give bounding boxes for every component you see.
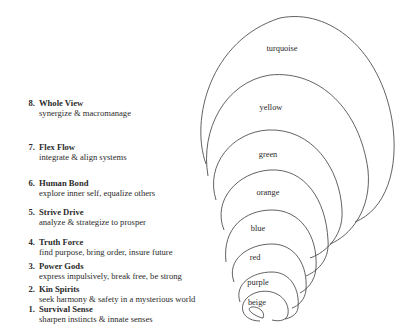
ring-label-purple: purple	[247, 278, 268, 287]
ring-blue	[226, 210, 317, 293]
ring-label-red: red	[250, 253, 261, 262]
ring-label-turquoise: turquoise	[266, 44, 297, 53]
ring-label-orange: orange	[257, 188, 280, 197]
ring-label-beige: beige	[248, 298, 266, 307]
ring-orange	[221, 170, 328, 276]
ring-yellow	[207, 75, 369, 244]
ring-label-green: green	[259, 150, 278, 159]
spiral-diagram: turquoise yellow green orange blue red p…	[0, 0, 407, 335]
ring-red	[232, 244, 306, 308]
spiral-rings-graphic	[0, 0, 407, 335]
ring-label-yellow: yellow	[260, 103, 283, 112]
ring-label-blue: blue	[251, 224, 265, 233]
ring-inner-loop	[249, 307, 263, 318]
